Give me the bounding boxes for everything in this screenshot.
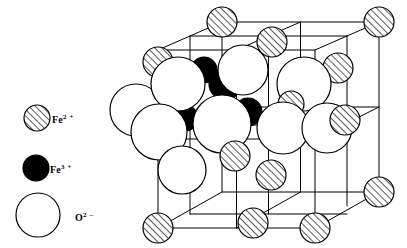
ion-fe2: [364, 7, 394, 37]
legend-label-fe3: Fe3 +: [50, 163, 72, 175]
legend-label-fe2: Fe2 +: [52, 113, 74, 125]
ion-o2: [151, 57, 205, 111]
ion-fe2: [256, 160, 286, 190]
ion-fe2: [220, 141, 250, 171]
ion-fe2: [207, 7, 237, 37]
legend-symbol-fe3: Fe: [50, 164, 61, 175]
legend-symbol-o2: O: [75, 212, 83, 223]
legend-symbol-fe2: Fe: [52, 114, 63, 125]
ion-o2: [218, 45, 268, 95]
ion-fe2: [238, 208, 268, 238]
ion-o2: [158, 146, 206, 194]
legend-label-o2: O2 –: [75, 211, 94, 223]
ion-fe2: [300, 213, 330, 243]
legend-charge-fe3: 3 +: [61, 163, 72, 171]
ion-fe2: [143, 213, 173, 243]
ion-o2: [257, 102, 309, 154]
legend-charge-o2: 2 –: [83, 211, 94, 219]
ion-fe2: [364, 177, 394, 207]
legend-charge-fe2: 2 +: [63, 113, 74, 121]
crystal-structure-figure: Fe2 + Fe3 + O2 –: [0, 0, 407, 248]
ion-fe2: [330, 105, 360, 135]
